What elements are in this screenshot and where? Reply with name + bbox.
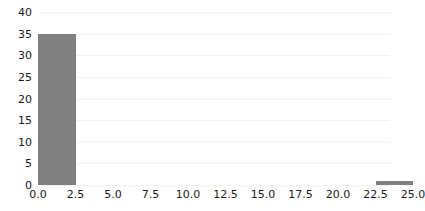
x-tick-label: 10.0 — [176, 189, 201, 200]
x-tick-label: 7.5 — [142, 189, 160, 200]
x-tick-label: 25.0 — [401, 189, 425, 200]
x-tick-label: 5.0 — [104, 189, 122, 200]
x-tick-label: 0.0 — [29, 189, 47, 200]
x-tick-label: 17.5 — [288, 189, 313, 200]
x-tick-label: 15.0 — [251, 189, 276, 200]
x-tick-label: 22.5 — [363, 189, 388, 200]
x-tick-label: 20.0 — [326, 189, 351, 200]
x-tick-label: 12.5 — [213, 189, 238, 200]
x-tick-label: 2.5 — [67, 189, 85, 200]
